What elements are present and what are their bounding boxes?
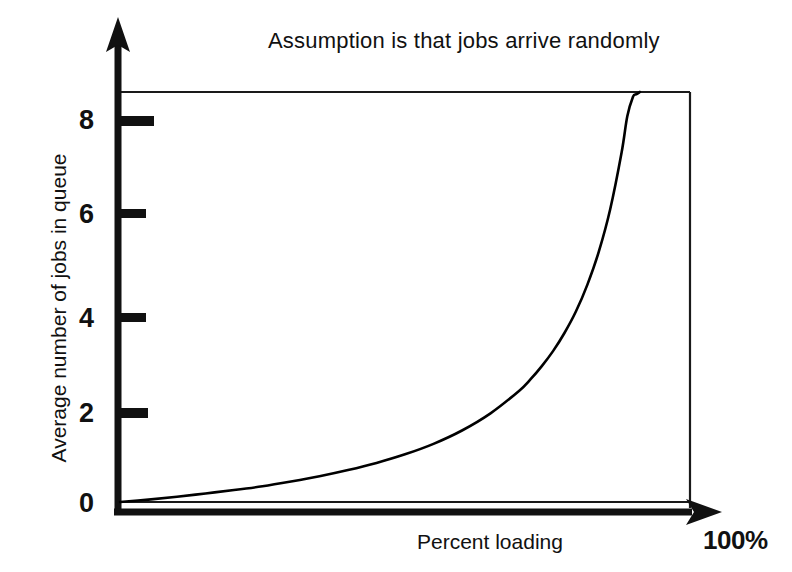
y-tick-label-2: 2 [60, 398, 94, 429]
x-axis-title: Percent loading [417, 530, 563, 554]
x-axis-max-label: 100% [703, 525, 768, 556]
y-tick-label-0: 0 [60, 488, 94, 519]
y-tick-label-8: 8 [60, 105, 94, 136]
y-tick-label-4: 4 [60, 303, 94, 334]
plot-frame [118, 92, 690, 508]
data-curve [120, 92, 640, 502]
y-axis-ticks [118, 116, 154, 418]
chart-title: Assumption is that jobs arrive randomly [268, 28, 660, 54]
y-tick-label-6: 6 [60, 199, 94, 230]
chart-canvas [0, 0, 792, 572]
queueing-curve-figure: Assumption is that jobs arrive randomly … [0, 0, 792, 572]
